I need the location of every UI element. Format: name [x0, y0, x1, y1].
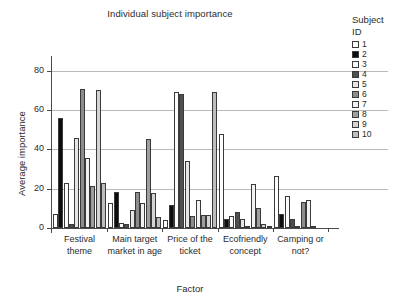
legend-swatch	[352, 121, 359, 128]
legend-title-line-2: ID	[352, 26, 418, 38]
bar	[114, 192, 119, 228]
legend-item[interactable]: 6	[352, 89, 418, 99]
bar	[251, 184, 256, 228]
bar	[295, 226, 300, 228]
legend-label: 5	[362, 79, 367, 89]
bar	[311, 226, 316, 228]
bar	[119, 223, 124, 228]
legend-title-line-1: Subject	[352, 14, 418, 26]
legend-label: 1	[362, 39, 367, 49]
bar	[224, 219, 229, 228]
bar	[212, 92, 217, 228]
legend-item[interactable]: 2	[352, 49, 418, 59]
legend-items: 12345678910	[352, 39, 418, 139]
bar	[169, 205, 174, 228]
legend-label: 2	[362, 49, 367, 59]
bar	[235, 212, 240, 228]
chart-root: Individual subject importance 020406080 …	[0, 0, 420, 304]
bar	[151, 193, 156, 228]
bar	[174, 92, 179, 228]
bar	[201, 215, 206, 228]
bar	[190, 216, 195, 228]
legend-swatch	[352, 71, 359, 78]
bar	[196, 200, 201, 228]
legend-swatch	[352, 41, 359, 48]
bar	[206, 215, 211, 228]
bar-group	[52, 61, 107, 228]
bar	[64, 183, 69, 228]
x-tick-mark	[162, 228, 163, 232]
legend-label: 7	[362, 99, 367, 109]
legend-swatch	[352, 61, 359, 68]
x-category-label-line: not?	[266, 246, 334, 258]
bar	[285, 196, 290, 228]
bar-group	[273, 61, 328, 228]
y-tick-mark	[47, 228, 52, 229]
plot-area	[52, 61, 328, 228]
bar	[185, 161, 190, 228]
bar	[290, 219, 295, 228]
y-tick-label: 0	[20, 222, 44, 232]
bar	[90, 186, 95, 228]
bar	[256, 208, 261, 228]
legend-item[interactable]: 7	[352, 99, 418, 109]
chart-title: Individual subject importance	[0, 8, 340, 19]
bar	[219, 134, 224, 228]
legend-item[interactable]: 8	[352, 109, 418, 119]
bar	[130, 210, 135, 228]
legend-swatch	[352, 131, 359, 138]
bar	[124, 224, 129, 228]
bar	[274, 176, 279, 228]
bar	[85, 158, 90, 228]
bar	[267, 226, 272, 228]
bar	[69, 224, 74, 228]
legend-swatch	[352, 101, 359, 108]
x-tick-mark	[107, 228, 108, 232]
bar	[101, 183, 106, 228]
y-tick-label: 80	[20, 65, 44, 75]
x-category-label-line: Camping or	[266, 234, 334, 246]
bar	[140, 203, 145, 228]
bar-group	[107, 61, 162, 228]
bar-group	[218, 61, 273, 228]
legend-item[interactable]: 5	[352, 79, 418, 89]
bar	[146, 139, 151, 228]
bar	[135, 192, 140, 228]
bar	[58, 118, 63, 228]
bar	[163, 220, 168, 228]
bar	[96, 90, 101, 228]
legend-label: 4	[362, 69, 367, 79]
x-axis-label: Factor	[52, 283, 328, 294]
bar	[240, 219, 245, 228]
legend-label: 8	[362, 109, 367, 119]
bar	[279, 214, 284, 228]
bar	[229, 216, 234, 228]
y-axis-label: Average importance	[16, 111, 27, 196]
legend-item[interactable]: 9	[352, 119, 418, 129]
bar-group	[162, 61, 217, 228]
bar	[108, 203, 113, 228]
bar	[179, 94, 184, 228]
legend-label: 6	[362, 89, 367, 99]
legend-item[interactable]: 3	[352, 59, 418, 69]
bar	[74, 138, 79, 228]
x-tick-mark	[328, 228, 329, 232]
x-category-label: Camping ornot?	[266, 234, 334, 257]
bar	[261, 224, 266, 228]
bar	[306, 200, 311, 228]
legend-label: 3	[362, 59, 367, 69]
legend-title: Subject ID	[352, 14, 418, 37]
legend-swatch	[352, 51, 359, 58]
x-tick-mark	[273, 228, 274, 232]
legend-item[interactable]: 1	[352, 39, 418, 49]
legend-swatch	[352, 81, 359, 88]
legend-item[interactable]: 10	[352, 129, 418, 139]
bar	[53, 214, 58, 228]
legend-item[interactable]: 4	[352, 69, 418, 79]
x-axis-line	[51, 228, 339, 229]
legend-swatch	[352, 111, 359, 118]
bar	[156, 217, 161, 228]
x-tick-mark	[218, 228, 219, 232]
bar	[80, 89, 85, 228]
legend-label: 9	[362, 119, 367, 129]
